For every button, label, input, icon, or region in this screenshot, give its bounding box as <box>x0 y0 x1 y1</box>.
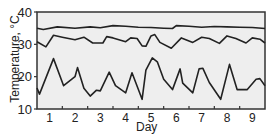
x-tick-label: 2 <box>72 111 79 125</box>
plot-area: 10203040123456789 <box>0 0 273 138</box>
x-axis-label: Day <box>136 120 157 134</box>
x-tick-label: 4 <box>122 111 129 125</box>
y-axis-label: Temperature, °C <box>8 14 22 104</box>
x-tick-label: 1 <box>46 111 53 125</box>
x-tick-label: 9 <box>249 111 256 125</box>
x-tick-label: 3 <box>97 111 104 125</box>
x-tick-label: 6 <box>173 111 180 125</box>
x-tick-label: 8 <box>224 111 231 125</box>
x-tick-label: 7 <box>198 111 205 125</box>
temperature-chart: 10203040123456789 Temperature, °C Day <box>0 0 273 138</box>
